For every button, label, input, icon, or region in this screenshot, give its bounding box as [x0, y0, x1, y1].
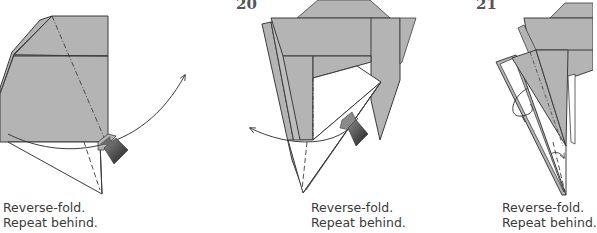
step-21-caption: Reverse-fold. Repeat behind. — [502, 200, 597, 230]
step-21-caption-line2: Repeat behind. — [502, 215, 597, 230]
step-19-caption: Reverse-fold. Repeat behind. — [3, 200, 98, 230]
step-20-caption: Reverse-fold. Repeat behind. — [311, 200, 406, 230]
step-21-caption-line1: Reverse-fold. — [502, 200, 597, 215]
step-20-caption-line2: Repeat behind. — [311, 215, 406, 230]
step-number-21: 21 — [476, 0, 497, 12]
step-20-caption-line1: Reverse-fold. — [311, 200, 406, 215]
step-19-caption-line1: Reverse-fold. — [3, 200, 98, 215]
step-number-20: 20 — [236, 0, 257, 12]
step-20-diagram — [250, 0, 400, 193]
step-19-diagram — [0, 16, 185, 194]
step-19-caption-line2: Repeat behind. — [3, 215, 98, 230]
step-21-diagram — [400, 3, 593, 195]
